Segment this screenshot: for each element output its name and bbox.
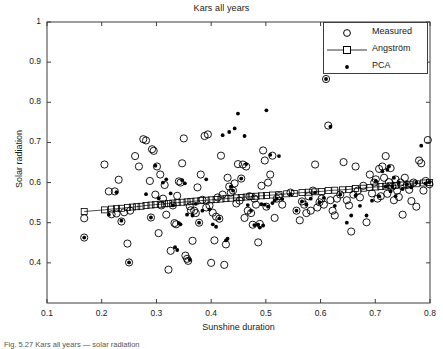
legend-label-angstrom: Angström: [372, 43, 411, 53]
y-tick-label: 1: [11, 16, 41, 26]
y-tick-label: 0.9: [11, 56, 41, 66]
x-tick-label: 0.8: [415, 308, 443, 318]
x-tick-label: 0.3: [141, 308, 171, 318]
figure-container: Kars all years 0.40.50.60.70.80.91 0.10.…: [0, 0, 443, 349]
legend-label-pca: PCA: [372, 60, 391, 70]
figure-caption: Fig. 5.27 Kars all years — solar radiati…: [4, 340, 139, 349]
x-axis-label: Sunshine duration: [47, 322, 430, 332]
y-axis-label: Solar radiation: [14, 99, 24, 219]
series-pca: [82, 77, 431, 264]
line-square-icon: [324, 41, 370, 58]
series-measured: [81, 75, 433, 273]
x-tick-label: 0.5: [251, 308, 281, 318]
legend: Measured Angström PCA: [323, 22, 428, 74]
legend-entry-pca: PCA: [324, 58, 429, 75]
x-tick-label: 0.7: [360, 308, 390, 318]
legend-entry-measured: Measured: [324, 24, 429, 41]
y-tick-label: 0.4: [11, 257, 41, 267]
legend-entry-angstrom: Angström: [324, 41, 429, 58]
open-circle-icon: [324, 24, 370, 41]
x-tick-label: 0.2: [87, 308, 117, 318]
filled-dot-icon: [324, 58, 370, 75]
x-tick-label: 0.1: [32, 308, 62, 318]
legend-label-measured: Measured: [372, 26, 412, 36]
x-tick-label: 0.4: [196, 308, 226, 318]
x-tick-label: 0.6: [306, 308, 336, 318]
